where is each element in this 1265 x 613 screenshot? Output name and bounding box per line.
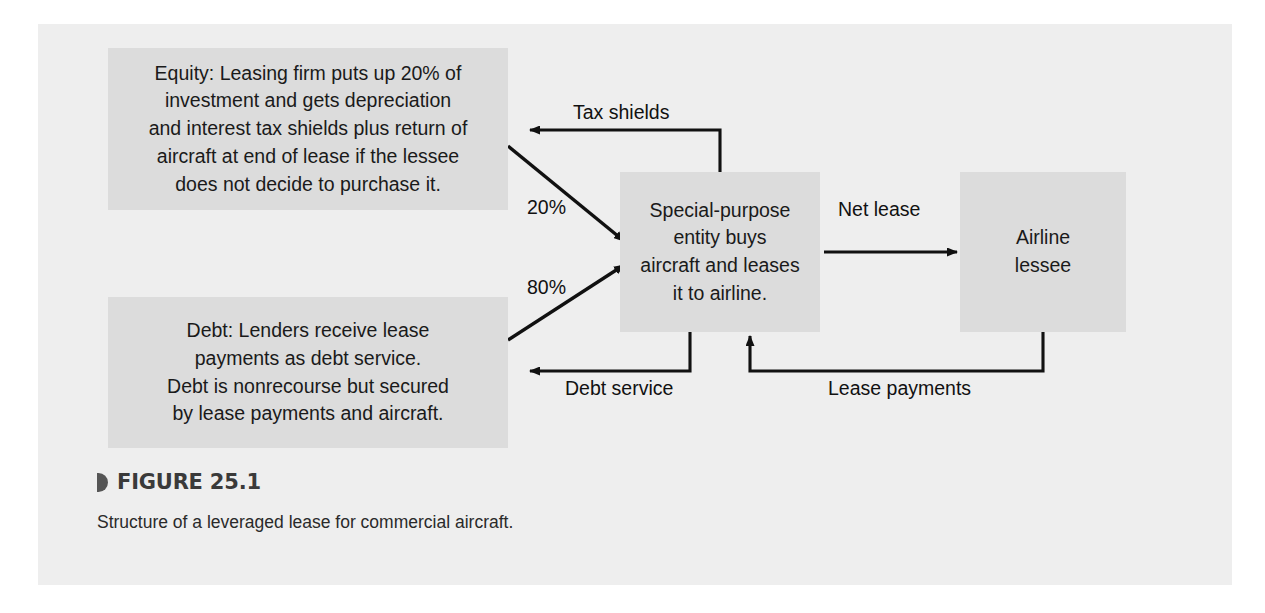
special-purpose-entity-box: Special-purpose entity buys aircraft and… — [620, 172, 820, 332]
airline-lessee-box-text: Airline lessee — [1015, 224, 1071, 279]
triangle-bullet-icon — [97, 473, 108, 492]
edge-label-lease-payments: Lease payments — [828, 377, 971, 400]
figure-caption-text: Structure of a leveraged lease for comme… — [97, 512, 997, 533]
figure-container: Equity: Leasing firm puts up 20% of inve… — [0, 0, 1265, 613]
edge-label-tax-shields: Tax shields — [573, 101, 669, 124]
equity-box-text: Equity: Leasing firm puts up 20% of inve… — [149, 60, 468, 198]
edge-label-equity-share: 20% — [527, 196, 566, 219]
debt-box-text: Debt: Lenders receive lease payments as … — [167, 317, 449, 428]
edge-label-debt-share: 80% — [527, 276, 566, 299]
equity-box: Equity: Leasing firm puts up 20% of inve… — [108, 48, 508, 210]
figure-heading: FIGURE 25.1 — [97, 470, 997, 494]
figure-caption-block: FIGURE 25.1 Structure of a leveraged lea… — [97, 470, 997, 533]
edge-label-debt-service: Debt service — [565, 377, 673, 400]
debt-box: Debt: Lenders receive lease payments as … — [108, 297, 508, 448]
figure-number-label: FIGURE 25.1 — [117, 470, 261, 494]
airline-lessee-box: Airline lessee — [960, 172, 1126, 332]
edge-label-net-lease: Net lease — [838, 198, 920, 221]
special-purpose-entity-box-text: Special-purpose entity buys aircraft and… — [640, 197, 799, 308]
